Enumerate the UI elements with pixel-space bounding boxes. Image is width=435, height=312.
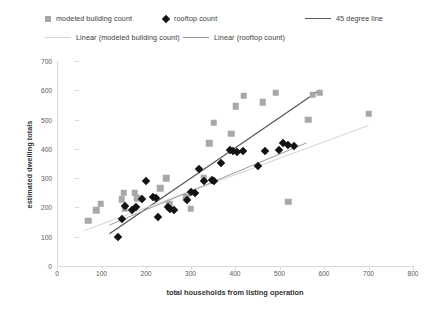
y-tick-label: 700	[26, 58, 52, 65]
plot-area: estimated dwelling totals total househol…	[0, 52, 435, 312]
data-point-modeled	[187, 205, 194, 212]
y-tick-label: 300	[26, 175, 52, 182]
data-point-modeled	[228, 130, 235, 137]
x-tick-label: 500	[274, 270, 285, 277]
x-tick-label: 600	[318, 270, 329, 277]
data-point-modeled	[316, 89, 323, 96]
data-point-modeled	[273, 89, 280, 96]
black-diamond-marker-icon	[162, 14, 170, 22]
data-point-modeled	[157, 185, 164, 192]
data-point-modeled	[93, 207, 100, 214]
x-tick-label: 800	[407, 270, 418, 277]
mid-line-swatch-icon	[183, 37, 209, 38]
legend-item-linear-rooftop: Linear (rooftop count)	[183, 33, 285, 42]
x-tick-mark	[57, 266, 58, 270]
data-point-modeled	[285, 198, 292, 205]
data-point-modeled	[259, 99, 266, 106]
gray-square-marker-icon	[45, 16, 51, 22]
data-point-modeled	[163, 175, 170, 182]
x-axis-title: total households from listing operation	[57, 288, 413, 297]
data-point-modeled	[85, 217, 92, 224]
data-point-modeled	[97, 201, 104, 208]
x-tick-mark	[280, 266, 281, 270]
x-tick-mark	[102, 266, 103, 270]
x-tick-mark	[191, 266, 192, 270]
data-point-modeled	[233, 103, 240, 110]
x-tick-mark	[324, 266, 325, 270]
chart-screenshot: modeled building count rooftop count 45 …	[0, 0, 435, 312]
x-tick-mark	[369, 266, 370, 270]
y-tick-label: 500	[26, 116, 52, 123]
y-tick-label: 600	[26, 87, 52, 94]
data-point-modeled	[305, 116, 312, 123]
data-point-modeled	[210, 119, 217, 126]
light-line-swatch-icon	[45, 37, 71, 38]
y-tick-label: 400	[26, 145, 52, 152]
chart-legend: modeled building count rooftop count 45 …	[0, 0, 435, 52]
legend-item-modeled-building-count: modeled building count	[45, 14, 132, 23]
legend-label-rooftop-count: rooftop count	[174, 14, 217, 23]
trendline	[84, 125, 369, 230]
trendline	[110, 143, 307, 225]
y-axis-ticks: 0100200300400500600700	[22, 52, 52, 266]
data-point-modeled	[241, 92, 248, 99]
legend-item-linear-modeled: Linear (modeled building count)	[45, 33, 180, 42]
data-point-modeled	[365, 110, 372, 117]
trendlines-group	[57, 61, 413, 266]
legend-label-linear-rooftop: Linear (rooftop count)	[214, 33, 285, 42]
x-axis-ticks: 0100200300400500600700800	[0, 268, 435, 284]
x-tick-label: 400	[229, 270, 240, 277]
data-canvas	[57, 61, 413, 266]
legend-item-45-degree-line: 45 degree line	[305, 14, 383, 23]
data-point-modeled	[206, 140, 213, 147]
y-tick-mark	[75, 266, 79, 267]
legend-item-rooftop-count: rooftop count	[163, 14, 217, 23]
x-tick-label: 300	[185, 270, 196, 277]
legend-label-45-degree-line: 45 degree line	[336, 14, 383, 23]
y-tick-label: 200	[26, 204, 52, 211]
x-tick-mark	[146, 266, 147, 270]
x-tick-mark	[413, 266, 414, 270]
legend-label-linear-modeled: Linear (modeled building count)	[76, 33, 180, 42]
data-point-modeled	[121, 190, 128, 197]
x-tick-label: 700	[363, 270, 374, 277]
x-tick-label: 0	[55, 270, 59, 277]
data-point-modeled	[310, 91, 317, 98]
x-tick-label: 100	[96, 270, 107, 277]
dark-line-swatch-icon	[305, 18, 331, 19]
x-tick-mark	[235, 266, 236, 270]
y-tick-label: 100	[26, 233, 52, 240]
legend-label-modeled-building-count: modeled building count	[56, 14, 132, 23]
x-tick-label: 200	[140, 270, 151, 277]
